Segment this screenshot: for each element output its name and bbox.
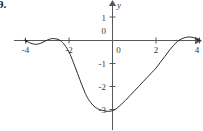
x-tick-label--4: -4: [22, 45, 30, 55]
x-tick-label-4: 4: [195, 45, 200, 55]
y-tick-label-1: 1: [102, 13, 107, 23]
y-tick-label--1: -1: [99, 59, 107, 69]
x-tick-label-0: 0: [116, 45, 121, 55]
x-tick-label-2: 2: [154, 45, 159, 55]
x-tick-label--2: -2: [65, 45, 73, 55]
y-tick-label-0: 0: [102, 26, 107, 36]
y-axis-arrow-icon: [109, 0, 116, 6]
y-tick-label--2: -2: [99, 82, 107, 92]
figure-container: 9. -4 -2 0 2 4 1 0 -1 -2 -3 y: [0, 0, 203, 131]
coordinate-plot: -4 -2 0 2 4 1 0 -1 -2 -3 y: [0, 0, 203, 131]
y-axis-name-label: y: [116, 0, 121, 10]
